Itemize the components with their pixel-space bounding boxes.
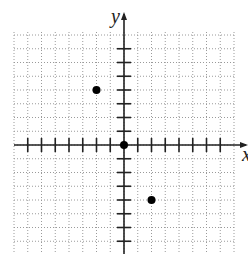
data-point bbox=[93, 86, 101, 94]
x-axis-label: x bbox=[242, 144, 248, 164]
coordinate-plane bbox=[0, 0, 248, 254]
data-point bbox=[148, 196, 156, 204]
y-axis-arrow-icon bbox=[121, 12, 127, 20]
data-point bbox=[120, 141, 128, 149]
y-axis-label: y bbox=[111, 6, 120, 26]
